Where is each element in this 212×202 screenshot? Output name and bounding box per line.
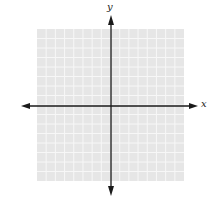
y-axis-up-arrow-icon bbox=[108, 15, 114, 25]
x-axis-right-arrow-icon bbox=[189, 103, 198, 109]
x-axis-left-arrow-icon bbox=[21, 103, 30, 109]
y-axis-down-arrow-icon bbox=[108, 186, 114, 196]
coordinate-plane bbox=[0, 0, 212, 202]
y-axis-label: y bbox=[107, 2, 113, 12]
x-axis-label: x bbox=[201, 99, 207, 109]
